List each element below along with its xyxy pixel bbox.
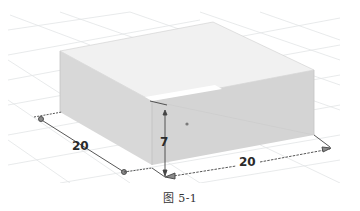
model-drawing: 20 7 20 <box>8 8 340 183</box>
figure-caption: 图 5-1 <box>0 189 360 205</box>
dimension-height-label: 7 <box>160 135 168 149</box>
box-model[interactable] <box>60 22 314 165</box>
center-point <box>185 122 188 125</box>
cad-viewport[interactable]: 20 7 20 <box>8 8 340 183</box>
dimension-width-label: 20 <box>239 155 256 169</box>
dimension-depth-label: 20 <box>72 139 89 153</box>
